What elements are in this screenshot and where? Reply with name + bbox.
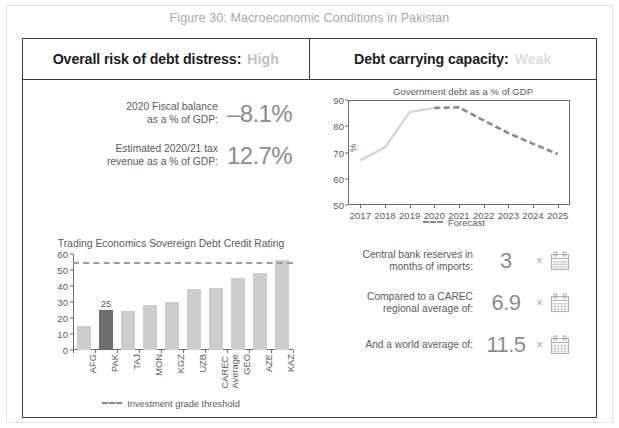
bar-chart-y-tick: 40 [57, 281, 68, 292]
bar-chart-y-axis [73, 254, 74, 350]
calendar-icon [550, 251, 570, 271]
stat-value: 12.7% [227, 142, 292, 170]
line-chart-series-layer [348, 100, 570, 205]
reserve-label-line1: And a world average of: [365, 339, 473, 351]
reserve-row-carec-average: Compared to a CAREC regional average of:… [310, 282, 596, 324]
bar-mon [143, 305, 157, 350]
forecast-dash-icon [423, 221, 443, 223]
reserve-label: Compared to a CAREC regional average of: [367, 291, 473, 316]
header-cell-carrying-capacity: Debt carrying capacity: Weak [310, 39, 597, 79]
bar-kaz [275, 260, 289, 350]
bar-taj [121, 311, 135, 350]
line-chart-legend: Forecast [318, 217, 590, 228]
bar-chart-x-tickmark [249, 350, 250, 353]
multiply-symbol: × [536, 296, 543, 310]
figure-table: Overall risk of debt distress: High Debt… [22, 38, 597, 418]
bar-chart-x-tickmark [205, 350, 206, 353]
bar-carec-average [209, 288, 223, 350]
multiply-symbol: × [536, 338, 543, 352]
reserve-value: 11.5 [483, 332, 529, 358]
bar-chart-x-label: CARECAverage [220, 354, 240, 388]
stat-label-line2: revenue as a % of GDP: [107, 156, 218, 169]
line-chart-x-tickmark [385, 205, 386, 208]
right-column: Government debt as a % of GDP % 50607080… [310, 80, 596, 417]
bar-chart-x-label-line: MON [154, 354, 164, 376]
bar-chart-x-label-line: CAREC [220, 354, 230, 388]
stat-label-line1: 2020 Fiscal balance [126, 101, 218, 114]
line-chart-y-tick: 60 [333, 173, 344, 184]
bar-chart-x-label: MON [154, 354, 164, 376]
body-region: 2020 Fiscal balance as a % of GDP: –8.1%… [23, 80, 596, 417]
reserve-label-line2: months of imports: [363, 261, 473, 273]
line-chart-plot-area: % 50607080902017201820192020202120222023… [348, 100, 570, 205]
carrying-capacity-value: Weak [515, 51, 552, 67]
line-chart-x-tickmark [508, 205, 509, 208]
bar-chart-x-label-line: Average [230, 354, 240, 388]
bar-chart-x-label: UZB [198, 354, 208, 373]
bar-chart-x-tickmark [293, 350, 294, 353]
bar-chart-y-tickmark [70, 334, 73, 335]
bar-chart-x-label: KGZ [176, 354, 186, 373]
bar-chart-x-label: GEO [242, 354, 252, 375]
bar-chart-x-tickmark [95, 350, 96, 353]
bar-chart-x-tickmark [271, 350, 272, 353]
stat-label-line2: as a % of GDP: [126, 114, 218, 127]
bar-chart-x-label-line: KGZ [176, 354, 186, 373]
stat-fiscal-balance: 2020 Fiscal balance as a % of GDP: –8.1% [23, 100, 310, 128]
bar-chart-x-tickmark [117, 350, 118, 353]
line-chart-y-tick: 80 [333, 121, 344, 132]
bar-chart-x-label-line: UZB [198, 354, 208, 373]
line-chart-series-forecast [434, 107, 557, 154]
reserves-group: Central bank reserves in months of impor… [310, 240, 596, 366]
bar-geo [231, 278, 245, 350]
calendar-icon [550, 293, 570, 313]
bar-chart-x-tickmark [227, 350, 228, 353]
calendar-icon [550, 335, 570, 355]
fiscal-stats-group: 2020 Fiscal balance as a % of GDP: –8.1%… [23, 100, 310, 184]
bar-chart-x-tickmark [161, 350, 162, 353]
left-column: 2020 Fiscal balance as a % of GDP: –8.1%… [23, 80, 310, 417]
page-title: Figure 30: Macroeconomic Conditions in P… [0, 11, 619, 25]
reserve-label-line1: Central bank reserves in [363, 249, 473, 261]
bar-chart-x-tickmark [73, 350, 74, 353]
stat-tax-revenue: Estimated 2020/21 tax revenue as a % of … [23, 142, 310, 170]
bar-chart-x-label-line: GEO [242, 354, 252, 375]
line-chart-x-tickmark [459, 205, 460, 208]
debt-distress-label: Overall risk of debt distress: [53, 51, 242, 67]
bar-chart-x-label-line: KAZ [286, 354, 296, 372]
reserve-label-line1: Compared to a CAREC [367, 291, 473, 303]
line-chart-x-tickmark [558, 205, 559, 208]
line-chart-y-tick: 90 [333, 95, 344, 106]
bar-chart-x-tickmark [139, 350, 140, 353]
bar-chart-x-label-line: AZE [264, 354, 274, 372]
stat-label-line1: Estimated 2020/21 tax [107, 143, 218, 156]
bar-uzb [187, 289, 201, 350]
multiply-symbol: × [536, 254, 543, 268]
bar-chart-x-tickmark [183, 350, 184, 353]
header-cell-debt-distress: Overall risk of debt distress: High [23, 39, 310, 79]
stat-label: Estimated 2020/21 tax revenue as a % of … [107, 143, 218, 168]
reserve-label: And a world average of: [365, 339, 473, 351]
bar-chart-y-tickmark [70, 302, 73, 303]
debt-distress-value: High [247, 51, 279, 67]
line-chart-x-tickmark [484, 205, 485, 208]
bar-chart-x-label-line: AFG [88, 354, 98, 373]
bar-chart-y-tick: 10 [57, 329, 68, 340]
reserve-value: 6.9 [483, 290, 529, 316]
bar-chart-title: Trading Economics Sovereign Debt Credit … [37, 238, 305, 249]
bar-chart-y-tick: 30 [57, 297, 68, 308]
bar-chart-x-label: KAZ [286, 354, 296, 372]
bar-chart-y-tick: 50 [57, 265, 68, 276]
bar-chart-legend: Investment grade threshold [37, 399, 305, 409]
header-row: Overall risk of debt distress: High Debt… [23, 39, 596, 80]
bar-chart-legend-label: Investment grade threshold [127, 399, 240, 409]
bar-chart-y-tick: 20 [57, 313, 68, 324]
bar-chart-x-label-line: PAK [110, 354, 120, 372]
stat-value: –8.1% [227, 100, 292, 128]
bar-chart-x-label: AZE [264, 354, 274, 372]
investment-grade-threshold-line [73, 262, 293, 264]
bar-chart-x-label: TAJ [132, 354, 142, 370]
line-chart-legend-label: Forecast [448, 217, 485, 228]
bar-chart-y-tick: 60 [57, 249, 68, 260]
bar-chart-y-tick: 0 [63, 345, 68, 356]
